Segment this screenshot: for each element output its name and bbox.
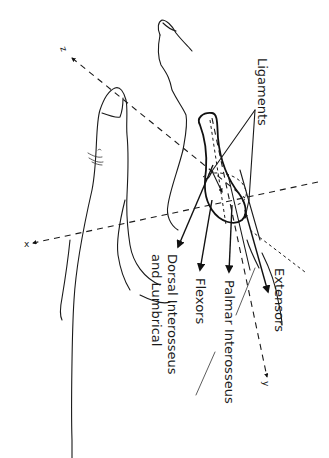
y-axis-label: y — [261, 381, 271, 387]
metacarpal-bone — [199, 113, 246, 225]
flexors-arrow — [200, 200, 212, 270]
x-axis-label: x — [24, 239, 30, 249]
and-lumbrical-label: and Lumbrical — [149, 254, 164, 346]
dorsal-interosseus-label: Dorsal Interosseus — [165, 254, 180, 375]
diagram-labels: Ligaments Extensors Palmar Interosseus F… — [149, 58, 287, 404]
extensors-label: Extensors — [272, 268, 287, 332]
z-axis — [72, 58, 245, 198]
palmar-interosseus-label: Palmar Interosseus — [222, 280, 237, 404]
index-finger-outline — [72, 88, 160, 458]
middle-finger-outline — [158, 20, 192, 150]
hand-finger-muscle-diagram: z x y Ligaments Extensors Palmar Interos… — [0, 0, 329, 458]
ligament-pointers — [205, 110, 255, 218]
extensors-arrow — [245, 210, 268, 292]
x-axis — [33, 182, 318, 243]
ligaments-label: Ligaments — [255, 58, 270, 126]
y-axis — [212, 118, 267, 377]
flexors-label: Flexors — [193, 278, 208, 324]
z-axis-label: z — [58, 45, 69, 53]
palmar-interosseus-arrow — [229, 205, 232, 272]
